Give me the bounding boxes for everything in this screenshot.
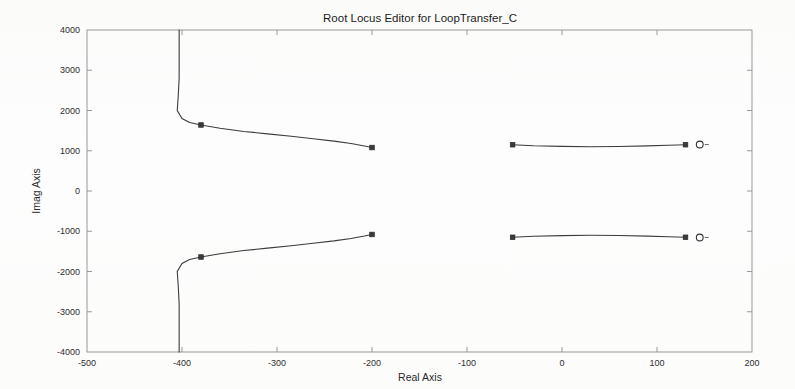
x-tick-label: -200 [363, 358, 381, 368]
root-locus-figure: Root Locus Editor for LoopTransfer_C -50… [0, 0, 795, 389]
root-locus-markers [199, 123, 709, 260]
locus-branch-lower-right [513, 235, 686, 237]
x-axis-label: Real Axis [398, 371, 442, 383]
y-tick-label: 0 [75, 186, 80, 196]
x-axis-tick-labels: -500-400-300-200-1000100200 [78, 358, 760, 368]
closed-loop-pole-lower-right [683, 235, 688, 240]
locus-branch-upper-left [177, 30, 372, 148]
x-axis-ticks [182, 30, 657, 352]
root-locus-plot: Root Locus Editor for LoopTransfer_C -50… [0, 0, 795, 389]
locus-branch-lower-left [177, 234, 372, 352]
y-tick-label: -1000 [57, 226, 80, 236]
closed-loop-pole-lower-left-end [370, 232, 375, 237]
x-tick-label: 0 [559, 358, 564, 368]
y-axis-label: Imag Axis [30, 168, 42, 214]
x-tick-label: -500 [78, 358, 96, 368]
locus-branch-upper-right [513, 145, 686, 147]
x-tick-label: -100 [458, 358, 476, 368]
x-tick-label: 200 [744, 358, 759, 368]
y-tick-label: 2000 [60, 106, 80, 116]
open-loop-pole-upper-right [510, 142, 515, 147]
y-tick-label: 3000 [60, 65, 80, 75]
y-tick-label: -3000 [57, 307, 80, 317]
gain-marker-lower-left-branch [199, 255, 204, 260]
y-tick-label: 4000 [60, 25, 80, 35]
plot-frame [87, 30, 752, 352]
zero-marker-lower-right [696, 234, 703, 241]
x-tick-label: 100 [649, 358, 664, 368]
closed-loop-pole-upper-right [683, 142, 688, 147]
zero-marker-upper-right [696, 141, 703, 148]
y-tick-label: -2000 [57, 267, 80, 277]
y-axis-ticks [87, 70, 752, 312]
y-tick-label: -4000 [57, 347, 80, 357]
x-tick-label: -300 [268, 358, 286, 368]
x-tick-label: -400 [173, 358, 191, 368]
page-title: Root Locus Editor for LoopTransfer_C [323, 12, 517, 24]
gain-marker-upper-left-branch [199, 123, 204, 128]
open-loop-pole-lower-right [510, 235, 515, 240]
y-tick-label: 1000 [60, 146, 80, 156]
root-locus-branches [177, 30, 685, 352]
closed-loop-pole-upper-left-end [370, 145, 375, 150]
y-axis-tick-labels: -4000-3000-2000-100001000200030004000 [57, 25, 80, 357]
